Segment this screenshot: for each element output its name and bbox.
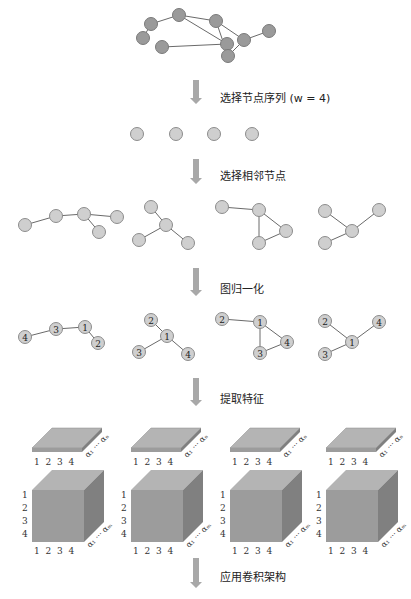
graph-node-icon [238, 34, 251, 47]
node-sequence [131, 128, 259, 141]
node-rank-label: 2 [148, 316, 154, 326]
graph-node-icon [78, 208, 91, 221]
graph-node-icon [160, 219, 173, 232]
node-axis-label: 1 [328, 457, 334, 467]
vertex-feature-slab: 1234α₁ ··· αₙ [326, 428, 405, 467]
vertex-feature-slab: 1234α₁ ··· αₙ [32, 428, 111, 467]
col-axis-label: 2 [46, 546, 52, 556]
node-axis-label: 2 [244, 457, 250, 467]
row-axis-label: 4 [121, 529, 127, 539]
feature-tensor-column: 1234α₁ ··· αₙ12341234α₁ ··· αₘ [316, 428, 408, 556]
down-arrow-icon [190, 159, 202, 184]
step-label-extract-features: 提取特征 [220, 390, 264, 406]
sequence-node-icon [246, 128, 259, 141]
node-rank-label: 3 [136, 348, 142, 358]
graph-node-icon [222, 50, 235, 63]
graph-node-icon [319, 205, 332, 218]
row-axis-label: 4 [22, 529, 28, 539]
node-axis-label: 3 [255, 457, 261, 467]
node-rank-label: 4 [376, 318, 382, 328]
row-axis-label: 1 [22, 490, 28, 500]
row-axis-label: 3 [316, 516, 322, 526]
row-axis-label: 2 [220, 503, 226, 513]
graph-node-icon [145, 201, 158, 214]
node-axis-label: 1 [133, 457, 139, 467]
graph-node-icon [145, 18, 158, 31]
edge-feature-cube: 12341234α₁ ··· αₘ [220, 470, 312, 556]
graph-node-icon [221, 38, 234, 51]
step-label-select-neighbors: 选择相邻节点 [220, 167, 286, 183]
down-arrow-icon [190, 80, 202, 104]
graph-node-icon [133, 234, 146, 247]
down-arrow-icon [190, 378, 202, 406]
graph-node-icon [50, 210, 63, 223]
row-axis-label: 4 [220, 529, 226, 539]
graph-node-icon [373, 204, 386, 217]
sequence-node-icon [170, 128, 183, 141]
node-rank-label: 2 [219, 315, 225, 325]
sequence-node-icon [208, 128, 221, 141]
normalized-graph: 4312 [19, 321, 105, 350]
normalized-graph: 2134 [216, 313, 294, 360]
vertex-feature-slab: 1234α₁ ··· αₙ [131, 428, 210, 467]
node-axis-label: 3 [351, 457, 357, 467]
node-axis-label: 3 [156, 457, 162, 467]
edge-feature-cube: 12341234α₁ ··· αₘ [316, 470, 408, 556]
col-axis-label: 3 [57, 546, 63, 556]
col-axis-label: 1 [328, 546, 334, 556]
input-graph [137, 9, 276, 63]
row-axis-label: 2 [121, 503, 127, 513]
row-axis-label: 4 [316, 529, 322, 539]
col-axis-label: 2 [145, 546, 151, 556]
node-rank-label: 3 [322, 350, 328, 360]
col-axis-label: 4 [69, 546, 75, 556]
vertex-feature-slab: 1234α₁ ··· αₙ [230, 428, 309, 467]
row-axis-label: 2 [316, 503, 322, 513]
col-axis-label: 4 [267, 546, 273, 556]
feature-tensor-column: 1234α₁ ··· αₙ12341234α₁ ··· αₘ [22, 428, 114, 556]
normalized-graphs: 4312213421342134 [19, 313, 386, 361]
graph-node-icon [263, 25, 276, 38]
row-axis-label: 2 [22, 503, 28, 513]
normalized-graph: 2134 [319, 315, 386, 361]
feature-tensor-column: 1234α₁ ··· αₙ12341234α₁ ··· αₘ [121, 428, 213, 556]
sequence-node-icon [131, 128, 144, 141]
col-axis-label: 3 [351, 546, 357, 556]
pipeline-diagram: 4312213421342134 1234α₁ ··· αₙ12341234α₁… [0, 0, 411, 599]
graph-node-icon [253, 204, 266, 217]
node-axis-label: 2 [340, 457, 346, 467]
feature-tensor-column: 1234α₁ ··· αₙ12341234α₁ ··· αₘ [220, 428, 312, 556]
graph-node-icon [319, 237, 332, 250]
graph-node-icon [182, 237, 195, 250]
edge-feature-cube: 12341234α₁ ··· αₘ [121, 470, 213, 556]
graph-node-icon [280, 225, 293, 238]
node-rank-label: 4 [284, 338, 290, 348]
node-axis-label: 4 [69, 457, 75, 467]
graph-node-icon [346, 225, 359, 238]
col-axis-label: 1 [232, 546, 238, 556]
node-axis-label: 1 [232, 457, 238, 467]
row-axis-label: 3 [121, 516, 127, 526]
node-rank-label: 1 [82, 323, 88, 333]
node-rank-label: 3 [53, 325, 59, 335]
step-label-apply-cnn: 应用卷积架构 [220, 568, 286, 584]
col-axis-label: 1 [133, 546, 139, 556]
node-axis-label: 4 [363, 457, 369, 467]
graph-node-icon [93, 226, 106, 239]
col-axis-label: 4 [363, 546, 369, 556]
graph-edge [162, 44, 227, 47]
col-axis-label: 2 [340, 546, 346, 556]
col-axis-label: 4 [168, 546, 174, 556]
normalized-graph: 2134 [133, 314, 195, 361]
neighborhood-graph [19, 208, 124, 239]
row-axis-label: 3 [220, 516, 226, 526]
feature-tensors: 1234α₁ ··· αₙ12341234α₁ ··· αₘ1234α₁ ···… [22, 428, 408, 556]
graph-node-icon [156, 41, 169, 54]
row-axis-label: 1 [316, 490, 322, 500]
graph-node-icon [111, 211, 124, 224]
col-axis-label: 2 [244, 546, 250, 556]
edge-feature-cube: 12341234α₁ ··· αₘ [22, 470, 114, 556]
graph-node-icon [137, 32, 150, 45]
node-axis-label: 3 [57, 457, 63, 467]
input-graph [137, 9, 276, 63]
